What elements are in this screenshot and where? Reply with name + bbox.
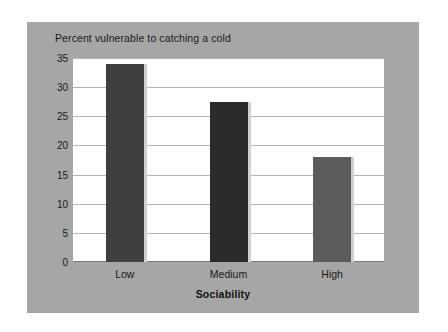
- y-tick-label: 25: [57, 111, 68, 122]
- y-tick-label: 0: [62, 257, 68, 268]
- y-tick-label: 20: [57, 140, 68, 151]
- bar-series: [73, 58, 384, 262]
- y-tick-label: 5: [62, 227, 68, 238]
- bar[interactable]: [106, 64, 144, 262]
- chart-panel: Percent vulnerable to catching a cold 05…: [27, 22, 419, 313]
- y-tick-label: 30: [57, 82, 68, 93]
- bar[interactable]: [313, 157, 351, 262]
- y-tick-label: 10: [57, 198, 68, 209]
- y-tick-label: 15: [57, 169, 68, 180]
- bar[interactable]: [210, 102, 248, 262]
- chart-title: Percent vulnerable to catching a cold: [55, 32, 231, 44]
- plot-area: 05101520253035: [73, 58, 384, 262]
- x-tick-label: High: [321, 268, 343, 280]
- y-tick-label: 35: [57, 53, 68, 64]
- x-tick-label: Medium: [210, 268, 247, 280]
- x-tick-label: Low: [115, 268, 134, 280]
- x-axis-title: Sociability: [27, 288, 419, 300]
- chart-figure: Percent vulnerable to catching a cold 05…: [0, 0, 448, 332]
